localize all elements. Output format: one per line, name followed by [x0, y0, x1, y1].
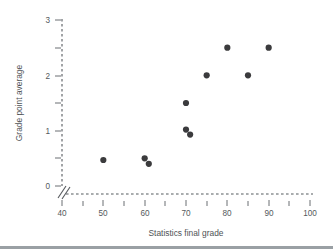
data-point [146, 161, 152, 167]
data-point [183, 126, 189, 132]
data-point [224, 45, 230, 51]
data-point [245, 72, 251, 78]
x-ticklabel-90: 90 [264, 209, 274, 218]
y-axis-title: Grade point average [14, 64, 24, 141]
x-ticklabel-80: 80 [222, 209, 232, 218]
y-ticklabel-0: 0 [45, 182, 50, 191]
plot-canvas: 3 2 1 0 40 50 60 70 80 90 100 Statist [0, 0, 333, 249]
axis-break-marks [58, 186, 70, 199]
x-ticklabel-40: 40 [57, 209, 67, 218]
data-point [183, 100, 189, 106]
x-axis-title: Statistics final grade [149, 228, 224, 238]
data-points-layer [100, 45, 272, 167]
y-ticklabel-1: 1 [45, 127, 50, 136]
data-point [187, 131, 193, 137]
x-ticklabel-60: 60 [140, 209, 150, 218]
x-ticklabel-100: 100 [303, 209, 317, 218]
data-point [142, 155, 148, 161]
data-point [100, 157, 106, 163]
data-point [204, 72, 210, 78]
y-axis-ticks [55, 20, 61, 186]
scatter-plot-figure: 3 2 1 0 40 50 60 70 80 90 100 Statist [0, 0, 333, 249]
y-ticklabel-2: 2 [45, 72, 50, 81]
data-point [266, 45, 272, 51]
x-axis-ticks [62, 200, 310, 206]
y-ticklabel-3: 3 [45, 16, 50, 25]
x-ticklabel-50: 50 [98, 209, 108, 218]
x-ticklabel-70: 70 [181, 209, 191, 218]
